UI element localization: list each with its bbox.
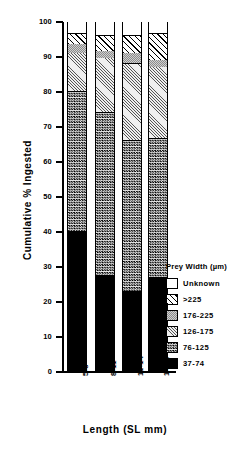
y-tick-label: 90: [0, 53, 52, 61]
legend-item: 76-125: [166, 341, 250, 355]
legend-title: Prey Width (µm): [166, 262, 250, 271]
y-tick-label: 70: [0, 123, 52, 131]
y-tick-label: 80: [0, 88, 52, 96]
bar-segment-Unknown: [149, 21, 167, 33]
bar-segment-176-225: [123, 53, 141, 64]
legend-item: 37-74: [166, 357, 250, 371]
bar-segment-176-225: [96, 51, 114, 58]
bar-segment-126-175: [123, 63, 141, 140]
legend-item: >225: [166, 292, 250, 306]
y-axis-title: Cumulative % Ingested: [22, 140, 33, 260]
x-axis-title: Length (SL mm): [0, 424, 250, 435]
bar-segment-126-175: [68, 53, 86, 92]
legend: Prey Width (µm) Unknown>225176-225126-17…: [166, 262, 250, 373]
bar-segment-Unknown: [96, 21, 114, 35]
bar-segment->225: [149, 33, 167, 59]
bar-segment-126-175: [96, 58, 114, 112]
bar-8-11: [95, 22, 115, 372]
legend-swatch-37-74: [166, 358, 178, 369]
legend-items: Unknown>225176-225126-17576-12537-74: [166, 276, 250, 371]
legend-swatch-76-125: [166, 342, 178, 353]
bar-11-14: [122, 22, 142, 372]
legend-label: Unknown: [183, 279, 220, 288]
legend-label: 126-175: [183, 327, 214, 336]
legend-label: 76-125: [183, 343, 209, 352]
legend-label: 37-74: [183, 359, 204, 368]
legend-label: >225: [183, 295, 202, 304]
bar-segment-76-125: [96, 112, 114, 275]
bar-segment->225: [68, 33, 86, 44]
legend-item: Unknown: [166, 276, 250, 290]
legend-swatch-126-175: [166, 326, 178, 337]
bar-5-8: [67, 22, 87, 372]
y-tick-label: 30: [0, 263, 52, 271]
legend-swatch-Unknown: [166, 278, 178, 289]
y-tick-label: 20: [0, 298, 52, 306]
bar-segment-126-175: [149, 67, 167, 139]
bar-segment-76-125: [149, 138, 167, 276]
x-tick-label: 8-11: [109, 330, 118, 376]
bar-segment-76-125: [68, 91, 86, 231]
x-tick-label: 11-14: [136, 330, 145, 376]
bar-segment->225: [96, 35, 114, 51]
bar-segment-76-125: [123, 140, 141, 291]
bar-segment-176-225: [149, 60, 167, 67]
bar-segment-Unknown: [123, 21, 141, 35]
plot-area: [62, 22, 175, 372]
y-tick-label: 100: [0, 18, 52, 26]
bar-segment-176-225: [68, 44, 86, 53]
x-tick-label: 5-8: [81, 330, 90, 376]
bar-segment-Unknown: [68, 21, 86, 33]
bar-14-17: [148, 22, 168, 372]
stacked-bar-chart: 0102030405060708090100 5-88-1111-1414-17…: [0, 0, 250, 452]
bar-segment->225: [123, 35, 141, 53]
legend-item: 176-225: [166, 308, 250, 322]
y-tick-label: 10: [0, 333, 52, 341]
legend-swatch-176-225: [166, 310, 178, 321]
legend-label: 176-225: [183, 311, 214, 320]
legend-swatch->225: [166, 294, 178, 305]
y-tick-label: 0: [0, 368, 52, 376]
legend-item: 126-175: [166, 325, 250, 339]
